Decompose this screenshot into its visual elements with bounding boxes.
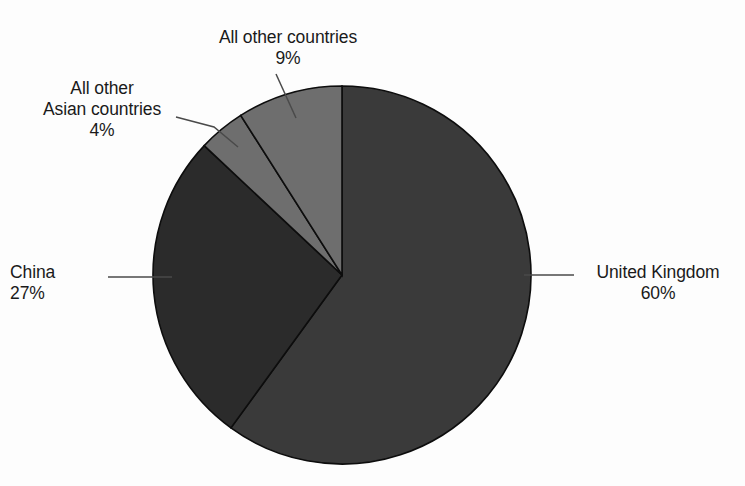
slice-label-united-kingdom: United Kingdom 60% <box>578 262 738 304</box>
slice-label-all-other-asian-countries: All other Asian countries 4% <box>16 78 188 141</box>
slice-label-united-kingdom-name: United Kingdom <box>578 262 738 283</box>
slice-label-china: China 27% <box>10 262 102 304</box>
slice-label-all-other-asian-countries-percent: 4% <box>16 120 188 141</box>
slice-label-all-other-asian-countries-line1: All other <box>16 78 188 99</box>
pie-chart-graphic <box>0 0 745 486</box>
pie-chart: All other countries 9% All other Asian c… <box>0 0 745 486</box>
slice-label-all-other-countries-name: All other countries <box>219 27 357 47</box>
slice-label-china-name: China <box>10 262 102 283</box>
slice-label-all-other-countries: All other countries 9% <box>193 27 383 69</box>
slice-label-united-kingdom-percent: 60% <box>578 283 738 304</box>
slice-label-china-percent: 27% <box>10 283 102 304</box>
slice-label-all-other-asian-countries-line2: Asian countries <box>16 99 188 120</box>
slice-label-all-other-countries-percent: 9% <box>193 48 383 69</box>
